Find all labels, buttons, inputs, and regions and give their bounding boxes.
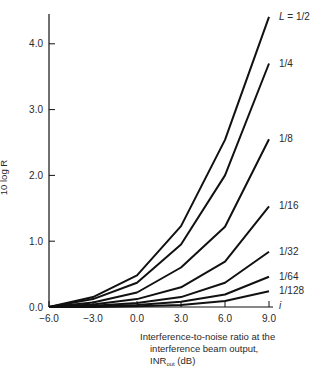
x-tick-label: 3.0 — [174, 313, 188, 324]
x-tick-label: 9.0 — [262, 313, 276, 324]
y-tick-label: 0.0 — [29, 302, 43, 313]
y-tick-label: 2.0 — [29, 170, 43, 181]
x-axis-title: Interference-to-noise ratio at the inter… — [140, 331, 310, 367]
x-axis-title-inr: INR — [150, 355, 166, 366]
series-label: 1/4 — [279, 58, 293, 69]
x-axis-title-unit: (dB) — [175, 355, 196, 366]
series-line-1-4 — [49, 64, 269, 308]
series-line-1-64 — [49, 277, 269, 307]
series-labels: L = 1/21/41/81/161/321/641/128 — [279, 11, 310, 296]
series-line-1-8 — [49, 139, 269, 307]
x-axis-title-line-1: Interference-to-noise ratio at the — [140, 331, 310, 343]
x-axis-end-label: i — [279, 300, 282, 311]
x-tick-label: −3.0 — [83, 313, 103, 324]
y-tick-label: 1.0 — [29, 236, 43, 247]
series-label: L = 1/2 — [279, 11, 310, 22]
chart-plot-area: 0.01.02.03.04.0−6.0−3.00.03.06.09.0i L =… — [0, 0, 315, 330]
series-label: 1/32 — [279, 246, 299, 257]
y-tick-label: 4.0 — [29, 38, 43, 49]
series-lines — [49, 17, 269, 307]
series-line-1-16 — [49, 206, 269, 307]
series-label: 1/16 — [279, 200, 299, 211]
y-tick-label: 3.0 — [29, 104, 43, 115]
axes: 0.01.02.03.04.0−6.0−3.00.03.06.09.0i — [29, 14, 282, 324]
x-axis-title-subscript: out — [166, 361, 174, 367]
x-tick-label: 0.0 — [130, 313, 144, 324]
series-label: 1/64 — [279, 271, 299, 282]
x-axis-title-line-2: interference beam output, — [140, 343, 310, 355]
x-axis-title-line-3: INRout (dB) — [140, 355, 310, 367]
x-tick-label: −6.0 — [39, 313, 59, 324]
series-label: 1/128 — [279, 285, 304, 296]
x-tick-label: 6.0 — [218, 313, 232, 324]
y-axis-title: 10 log R — [0, 160, 9, 195]
series-label: 1/8 — [279, 133, 293, 144]
